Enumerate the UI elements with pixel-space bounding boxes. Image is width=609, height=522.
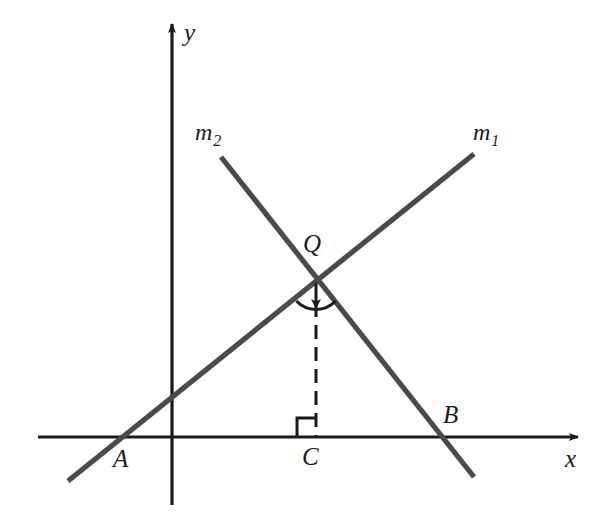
line-m2 — [221, 157, 474, 477]
line-label-m1-subscript: 1 — [490, 132, 499, 149]
line-label-m1-base: m — [473, 119, 490, 145]
line-m1 — [68, 154, 474, 481]
point-label-q: Q — [303, 231, 321, 256]
x-axis-label: x — [565, 446, 576, 471]
right-angle-mark-at-c — [297, 418, 316, 437]
line-label-m1: m1 — [473, 120, 499, 149]
geometry-figure: y x m2 m1 Q A B C — [0, 0, 609, 522]
line-label-m2-subscript: 2 — [212, 132, 221, 149]
y-axis-label: y — [184, 20, 195, 45]
point-label-a: A — [113, 446, 128, 471]
point-label-c: C — [302, 444, 319, 469]
line-label-m2-base: m — [195, 119, 212, 145]
line-label-m2: m2 — [195, 120, 221, 149]
point-label-b: B — [443, 402, 458, 427]
